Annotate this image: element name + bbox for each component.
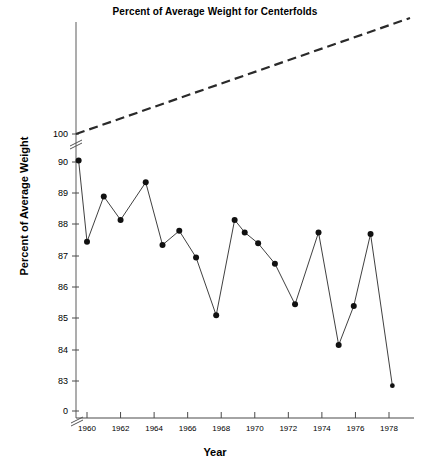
x-tick-label: 1968 xyxy=(212,424,230,433)
data-point-marker xyxy=(242,229,248,235)
data-point-marker xyxy=(272,261,278,267)
data-point-marker xyxy=(292,301,298,307)
data-series-markers xyxy=(76,157,395,388)
data-point-marker xyxy=(213,312,219,318)
series-polyline xyxy=(79,160,393,385)
y-tick-label: 100 xyxy=(53,129,68,139)
data-point-marker xyxy=(390,383,395,388)
data-point-marker xyxy=(76,157,82,163)
data-series-line xyxy=(79,160,393,385)
y-tick-label: 0 xyxy=(63,406,68,416)
data-point-marker xyxy=(351,303,357,309)
x-tick-label: 1970 xyxy=(246,424,264,433)
y-tick-label: 85 xyxy=(58,313,68,323)
x-tick-label: 1974 xyxy=(313,424,331,433)
x-tick-label: 1972 xyxy=(279,424,297,433)
y-tick-label: 87 xyxy=(58,251,68,261)
y-axis-ticks: 10090898887868584830 xyxy=(53,129,79,416)
x-tick-label: 1978 xyxy=(380,424,398,433)
y-tick-label: 90 xyxy=(58,157,68,167)
data-point-marker xyxy=(368,231,374,237)
y-tick-label: 83 xyxy=(58,376,68,386)
chart-plot-area: 10090898887868584830 1960196219641966196… xyxy=(0,0,430,476)
data-point-marker xyxy=(255,240,261,246)
trend-dashed-line xyxy=(76,18,410,134)
data-point-marker xyxy=(232,217,238,223)
x-tick-label: 1964 xyxy=(145,424,163,433)
x-tick-label: 1960 xyxy=(78,424,96,433)
data-point-marker xyxy=(316,229,322,235)
y-tick-label: 89 xyxy=(58,188,68,198)
data-point-marker xyxy=(176,228,182,234)
y-tick-label: 84 xyxy=(58,345,68,355)
y-tick-label: 88 xyxy=(58,219,68,229)
data-point-marker xyxy=(336,342,342,348)
y-tick-label: 86 xyxy=(58,282,68,292)
chart-container: Percent of Average Weight for Centerfold… xyxy=(0,0,430,476)
data-point-marker xyxy=(193,254,199,260)
data-point-marker xyxy=(143,179,149,185)
x-axis-ticks: 1960196219641966196819701972197419761978 xyxy=(78,412,398,433)
x-tick-label: 1966 xyxy=(179,424,197,433)
x-tick-label: 1976 xyxy=(347,424,365,433)
axes xyxy=(76,22,414,418)
reference-trend-line xyxy=(76,18,410,134)
data-point-marker xyxy=(118,217,124,223)
x-tick-label: 1962 xyxy=(112,424,130,433)
data-point-marker xyxy=(160,242,166,248)
data-point-marker xyxy=(101,193,107,199)
data-point-marker xyxy=(84,239,90,245)
